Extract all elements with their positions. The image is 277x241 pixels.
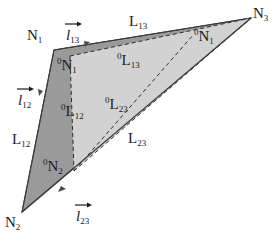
node-label-ref-N1-left-base: N	[62, 57, 73, 73]
length-label-L23: L23	[128, 130, 147, 148]
node-label-N2-base: N	[5, 214, 16, 230]
vector-label-l23: l23	[76, 208, 90, 226]
node-label-N1: N1	[27, 27, 43, 45]
length-label-ref-L12-base: L	[66, 103, 75, 119]
length-label-ref-L13: 0L13	[117, 52, 140, 70]
node-label-ref-N2-subscript: 2	[58, 166, 63, 176]
length-label-L13-base: L	[129, 13, 138, 29]
length-label-ref-L12: 0L12	[61, 103, 84, 121]
vector-label-l12: l12	[18, 92, 32, 110]
node-label-N3-base: N	[253, 5, 264, 21]
vector-arrow-l12-icon	[17, 85, 34, 92]
vector-label-l12-symbol: l	[18, 92, 22, 108]
vector-arrow-l13-icon	[65, 20, 82, 27]
node-label-ref-N2-base: N	[48, 158, 59, 174]
length-label-ref-L13-subscript: 13	[131, 60, 140, 70]
length-label-ref-L23-base: L	[110, 96, 119, 112]
geometry-figure: N1 N2 N3 0N1 0N1 0N2 L12 L13 L23 0L12 0L…	[0, 0, 277, 241]
vector-arrow-l23-icon	[75, 201, 92, 208]
length-label-L12-base: L	[12, 131, 21, 147]
node-label-ref-N1-right-base: N	[199, 28, 210, 44]
node-label-ref-N1-right-subscript: 1	[209, 36, 214, 46]
node-label-ref-N1-right: 0N1	[194, 28, 214, 46]
edge-tick-l12-icon	[38, 89, 43, 96]
length-label-L12-subscript: 12	[21, 139, 30, 149]
length-label-L23-subscript: 23	[137, 138, 146, 148]
length-label-L13: L13	[129, 13, 148, 31]
length-label-L23-base: L	[128, 130, 137, 146]
length-label-ref-L23: 0L23	[105, 96, 128, 114]
vector-label-l23-symbol: l	[76, 208, 80, 224]
vector-label-l12-subscript: 12	[22, 100, 31, 110]
length-label-L12: L12	[12, 131, 31, 149]
vector-label-l13: l13	[66, 27, 80, 45]
vector-label-l23-subscript: 23	[80, 216, 89, 226]
length-label-ref-L23-subscript: 23	[119, 104, 128, 114]
vector-label-l13-symbol: l	[66, 27, 70, 43]
node-label-N2-subscript: 2	[16, 222, 21, 232]
node-label-ref-N2: 0N2	[43, 158, 63, 176]
edge-tick-l23-icon	[58, 186, 66, 192]
length-label-ref-L12-subscript: 12	[75, 111, 84, 121]
node-label-N3-subscript: 3	[264, 13, 269, 23]
node-label-ref-N1-left-subscript: 1	[72, 65, 77, 75]
node-label-N1-base: N	[27, 27, 38, 43]
vector-label-l13-subscript: 13	[70, 35, 79, 45]
length-label-ref-L13-base: L	[122, 52, 131, 68]
node-label-N1-subscript: 1	[38, 35, 43, 45]
node-label-N2: N2	[5, 214, 21, 232]
length-label-L13-subscript: 13	[138, 21, 147, 31]
node-label-ref-N1-left: 0N1	[57, 57, 77, 75]
node-label-N3: N3	[253, 5, 269, 23]
